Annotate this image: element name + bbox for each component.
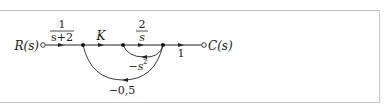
gain-2-over-s: 2 s [136, 18, 148, 44]
junction-node [161, 43, 165, 47]
junction-node [81, 43, 85, 47]
output-label: C(s) [208, 39, 233, 53]
gain-1: 1 [178, 47, 185, 60]
junction-node [121, 43, 125, 47]
gain-minus-0-5: −0,5 [109, 84, 136, 97]
input-label: R(s) [13, 39, 39, 53]
svg-text:2: 2 [143, 58, 147, 66]
arrow-icon [122, 78, 128, 82]
gain-1-over-s-plus-2: 1 s+2 [50, 18, 74, 44]
sink-node [202, 43, 207, 48]
feedback-loop-outer [83, 45, 163, 80]
arrow-icon [98, 43, 104, 47]
svg-text:s: s [139, 31, 145, 44]
svg-text:s+2: s+2 [51, 31, 73, 44]
source-node [41, 43, 46, 48]
signal-flow-graph: R(s) C(s) 1 s+2 K 2 s 1 −s 2 −0,5 [0, 0, 387, 107]
svg-text:−s: −s [129, 60, 144, 73]
feedback-loop-inner [123, 45, 163, 57]
svg-text:1: 1 [59, 18, 66, 31]
gain-k: K [96, 29, 107, 43]
gain-minus-s-squared: −s 2 [129, 58, 148, 73]
svg-text:2: 2 [139, 18, 146, 31]
